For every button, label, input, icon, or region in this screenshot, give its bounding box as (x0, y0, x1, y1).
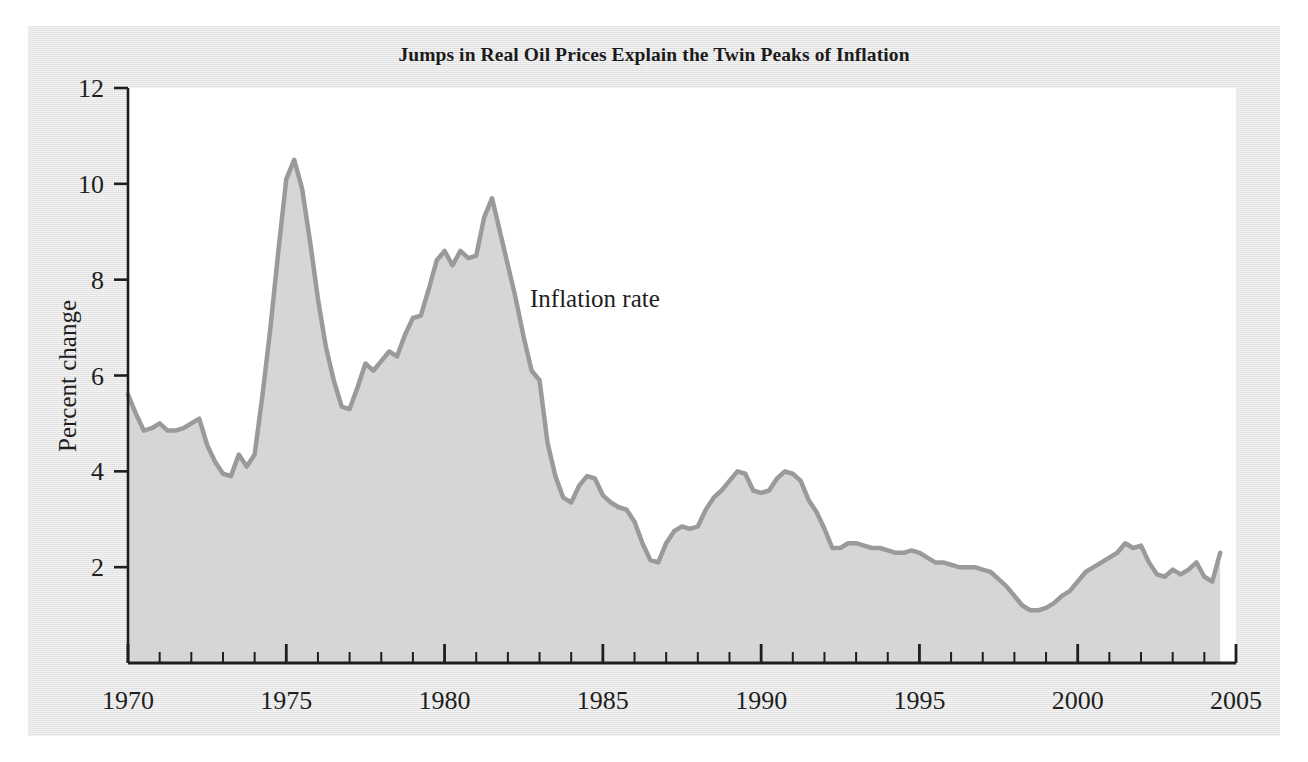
y-tick-label: 12 (78, 74, 104, 103)
x-tick-label: 1995 (893, 686, 945, 715)
inflation-area-chart: 24681012 1970197519801985199019952000200… (28, 26, 1280, 736)
y-tick-label: 4 (91, 457, 104, 486)
x-tick-label: 1980 (419, 686, 471, 715)
y-tick-label: 8 (91, 266, 104, 295)
series-annotation-inflation-rate: Inflation rate (530, 285, 660, 312)
y-tick-label: 10 (78, 170, 104, 199)
chart-panel: Jumps in Real Oil Prices Explain the Twi… (28, 26, 1280, 736)
x-tick-label: 1985 (577, 686, 629, 715)
x-tick-label: 1990 (735, 686, 787, 715)
x-tick-label: 2005 (1210, 686, 1262, 715)
y-tick-label: 2 (91, 553, 104, 582)
x-tick-label: 2000 (1052, 686, 1104, 715)
x-tick-label: 1975 (260, 686, 312, 715)
y-tick-label: 6 (91, 362, 104, 391)
figure-root: Jumps in Real Oil Prices Explain the Twi… (0, 0, 1308, 762)
y-axis-title: Percent change (54, 300, 81, 452)
x-tick-label: 1970 (102, 686, 154, 715)
y-axis-ticks: 24681012 (78, 74, 128, 582)
